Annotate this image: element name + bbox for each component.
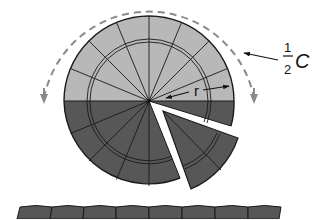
radius-label: r (194, 82, 199, 99)
circle-area-diagram: r 1 2 C (0, 0, 322, 219)
half-circumference-label: 1 2 C (244, 40, 310, 77)
fraction-denominator: 2 (284, 62, 291, 77)
fraction-numerator: 1 (284, 40, 291, 55)
rearranged-sector-strip (17, 206, 281, 220)
circumference-symbol: C (295, 50, 310, 72)
